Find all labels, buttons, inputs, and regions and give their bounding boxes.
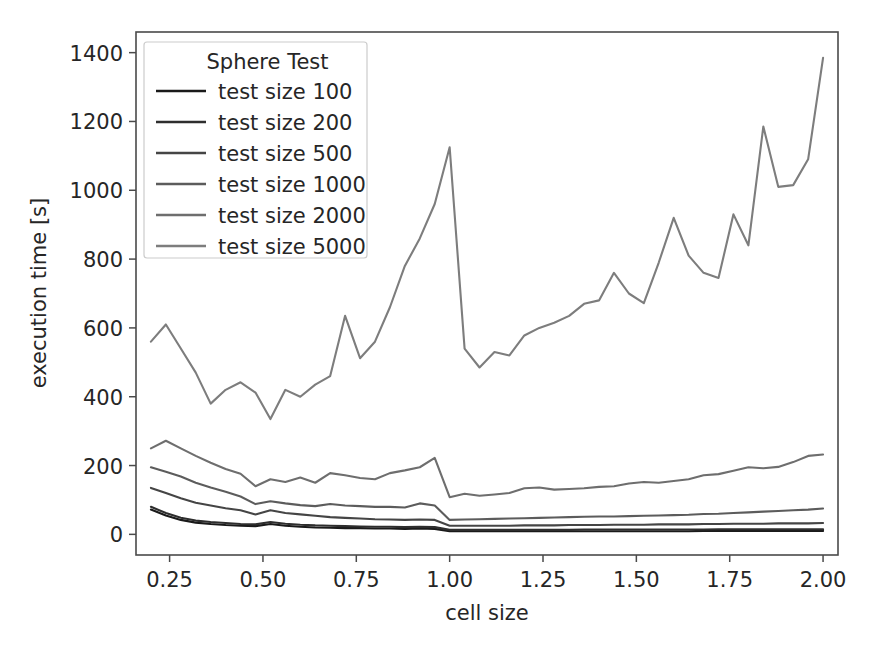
x-axis-title: cell size bbox=[445, 601, 529, 625]
line-chart: 0.250.500.751.001.251.501.752.0002004006… bbox=[0, 0, 879, 648]
legend: Sphere Testtest size 100test size 200tes… bbox=[144, 42, 367, 259]
y-tick-label: 0 bbox=[110, 523, 123, 547]
x-tick-label: 2.00 bbox=[800, 568, 847, 592]
legend-label-2: test size 500 bbox=[218, 142, 352, 166]
x-tick-label: 1.25 bbox=[520, 568, 567, 592]
y-tick-label: 200 bbox=[83, 455, 123, 479]
series-line-3 bbox=[151, 467, 823, 520]
y-tick-label: 800 bbox=[83, 248, 123, 272]
legend-label-1: test size 200 bbox=[218, 111, 352, 135]
x-tick-label: 1.50 bbox=[613, 568, 660, 592]
y-tick-label: 1000 bbox=[70, 179, 123, 203]
chart-figure: 0.250.500.751.001.251.501.752.0002004006… bbox=[0, 0, 879, 648]
legend-label-4: test size 2000 bbox=[218, 204, 366, 228]
legend-label-3: test size 1000 bbox=[218, 173, 366, 197]
y-tick-label: 1400 bbox=[70, 42, 123, 66]
x-tick-label: 0.50 bbox=[240, 568, 287, 592]
x-tick-label: 1.00 bbox=[426, 568, 473, 592]
y-tick-label: 600 bbox=[83, 317, 123, 341]
x-tick-label: 1.75 bbox=[706, 568, 753, 592]
series-line-4 bbox=[151, 441, 823, 497]
x-tick-label: 0.25 bbox=[146, 568, 193, 592]
y-tick-label: 400 bbox=[83, 386, 123, 410]
legend-label-0: test size 100 bbox=[218, 80, 352, 104]
legend-label-5: test size 5000 bbox=[218, 235, 366, 259]
y-tick-label: 1200 bbox=[70, 110, 123, 134]
x-tick-label: 0.75 bbox=[333, 568, 380, 592]
legend-title: Sphere Test bbox=[206, 50, 328, 74]
y-axis-title: execution time [s] bbox=[27, 198, 51, 388]
